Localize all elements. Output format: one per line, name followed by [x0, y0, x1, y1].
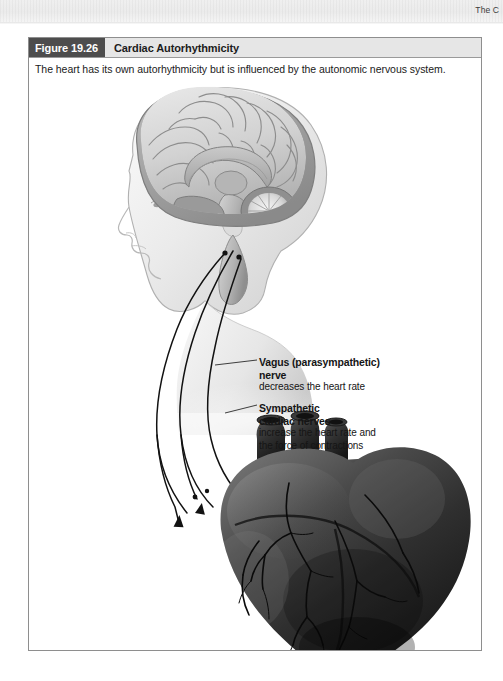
figure-box: Figure 19.26 Cardiac Autorhythmicity The… — [28, 37, 482, 651]
scan-artifact-edge — [0, 22, 503, 24]
annotation-sympathetic-body-line1: increase the heart rate and — [259, 427, 376, 440]
nerve-origin-node — [222, 250, 227, 255]
nerve-origin-node — [236, 254, 241, 259]
annotation-vagus: Vagus (parasympathetic) nerve decreases … — [259, 356, 380, 394]
figure-caption: The heart has its own autorhythmicity bu… — [35, 63, 475, 75]
nerve-arrowheads — [174, 489, 210, 528]
anatomical-illustration — [29, 83, 481, 650]
running-header: The C — [475, 5, 499, 15]
scan-artifact-band — [0, 0, 503, 22]
annotation-sympathetic: Sympathetic cardiac nerves increase the … — [259, 402, 376, 452]
figure-titlebar: Figure 19.26 Cardiac Autorhythmicity — [29, 38, 481, 58]
annotation-vagus-title-line2: nerve — [259, 369, 380, 382]
figure-number-badge: Figure 19.26 — [29, 38, 105, 57]
annotation-vagus-title-line1: Vagus (parasympathetic) — [259, 356, 380, 369]
annotation-sympathetic-title-line1: Sympathetic — [259, 402, 376, 415]
annotation-sympathetic-title-line2: cardiac nerves — [259, 415, 376, 428]
figure-title: Cardiac Autorhythmicity — [105, 38, 239, 57]
annotation-vagus-body-line1: decreases the heart rate — [259, 381, 380, 394]
annotation-sympathetic-body-line2: the force of contractions — [259, 440, 376, 453]
